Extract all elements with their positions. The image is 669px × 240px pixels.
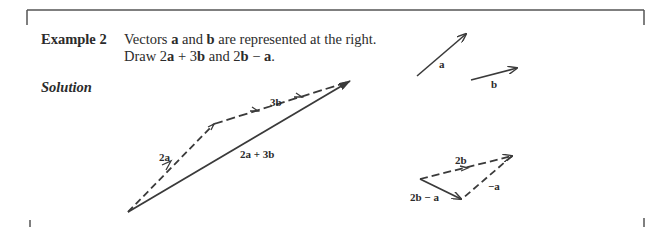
text: Vectors [124, 31, 171, 47]
label-a: a [439, 58, 445, 70]
vector-2a-plus-3b [128, 81, 350, 212]
text: + 3 [174, 48, 197, 64]
label-2b: 2b [455, 154, 467, 166]
problem-line-2: Draw 2a + 3b and 2b − a. [124, 48, 275, 65]
label-2a: 2a [159, 151, 170, 163]
label-3b: 3b [270, 96, 282, 108]
problem-line-1: Vectors a and b are represented at the r… [124, 31, 376, 48]
text: − [249, 48, 264, 64]
text: and [178, 31, 206, 47]
example-label: Example 2 [41, 31, 107, 48]
label-b: b [491, 78, 497, 90]
text: are represented at the right. [215, 31, 377, 47]
text: . [271, 48, 275, 64]
text: and 2 [205, 48, 240, 64]
bold-b: b [241, 48, 249, 64]
bold-b: b [197, 48, 205, 64]
vector-neg-a [462, 156, 512, 199]
label-2b-minus-a: 2b − a [410, 191, 439, 203]
label-neg-a: −a [488, 180, 500, 192]
text: Draw 2 [124, 48, 167, 64]
solution-label: Solution [41, 79, 92, 96]
label-2a-plus-3b: 2a + 3b [240, 148, 274, 160]
bold-b: b [207, 31, 215, 47]
